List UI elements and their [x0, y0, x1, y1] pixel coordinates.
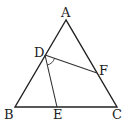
label-f: F: [99, 63, 108, 78]
label-d: D: [34, 45, 44, 60]
angle-mark-edf: [47, 58, 54, 65]
label-a: A: [60, 5, 71, 20]
triangle-diagram: A B C D E F: [0, 0, 132, 129]
label-b: B: [4, 107, 14, 122]
label-c: C: [112, 107, 122, 122]
segment-df: [45, 55, 97, 73]
label-e: E: [53, 107, 63, 122]
